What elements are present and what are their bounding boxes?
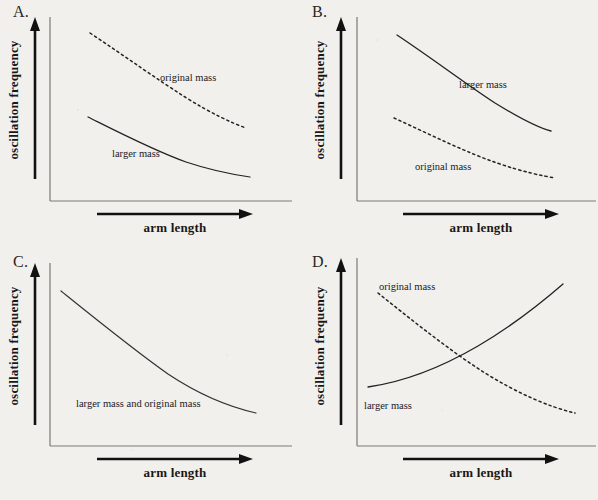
curve-larger-mass (368, 284, 563, 387)
x-axis-label-b: arm length (403, 220, 559, 236)
panel-a-plot (0, 0, 299, 250)
curve-larger-and-original-mass (61, 291, 256, 413)
curve-label-larger-mass: larger mass (112, 148, 160, 159)
panel-b-plot (299, 0, 598, 250)
x-axis-arrow (403, 209, 559, 219)
x-axis-arrow (97, 454, 253, 464)
x-axis-label-a: arm length (97, 220, 253, 236)
y-axis-arrow (336, 17, 346, 179)
panel-d-plot (299, 250, 598, 500)
y-axis-arrow (30, 17, 40, 179)
curve-original-mass (378, 293, 575, 413)
curve-label-larger-mass: larger mass (364, 400, 412, 411)
curve-label-larger-and-original-mass: larger mass and original mass (76, 398, 201, 409)
panel-c-plot (0, 250, 299, 500)
curve-label-larger-mass: larger mass (459, 79, 507, 90)
y-axis-label-text: oscillation frequency (6, 286, 22, 405)
x-axis-arrow (97, 209, 253, 219)
panel-a: A. oscillation frequency arm length orig… (0, 0, 299, 250)
y-axis-label-text: oscillation frequency (6, 40, 22, 159)
curve-label-original-mass: original mass (379, 281, 435, 292)
y-axis-arrow (30, 263, 40, 425)
x-axis-arrow (403, 454, 559, 464)
y-axis-label-a: oscillation frequency (3, 0, 25, 200)
panel-b: B. oscillation frequency arm length larg… (299, 0, 598, 250)
panel-grid: A. oscillation frequency arm length orig… (0, 0, 598, 500)
curve-larger-mass (88, 117, 250, 177)
panel-c: C. oscillation frequency arm length larg… (0, 250, 299, 500)
y-axis-label-b: oscillation frequency (309, 0, 331, 200)
curve-label-original-mass: original mass (415, 161, 471, 172)
x-axis-label-d: arm length (403, 465, 559, 481)
y-axis-label-d: oscillation frequency (309, 246, 331, 446)
y-axis-label-text: oscillation frequency (312, 40, 328, 159)
y-axis-arrow (336, 258, 346, 425)
y-axis-label-text: oscillation frequency (312, 286, 328, 405)
x-axis-label-c: arm length (97, 465, 253, 481)
panel-d: D. oscillation frequency arm length orig… (299, 250, 598, 500)
curve-label-original-mass: original mass (160, 72, 216, 83)
y-axis-label-c: oscillation frequency (3, 246, 25, 446)
